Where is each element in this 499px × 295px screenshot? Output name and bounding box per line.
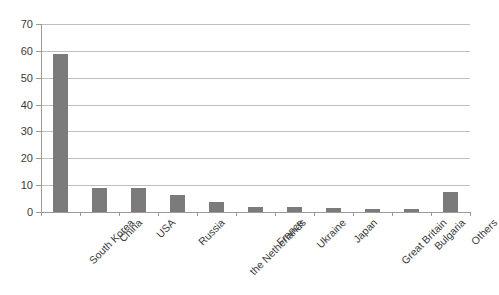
x-tick-mark — [392, 212, 393, 216]
x-tick-label: USA — [154, 217, 177, 240]
x-tick-mark — [353, 212, 354, 216]
x-tick-mark — [236, 212, 237, 216]
y-axis-tick-marks — [0, 24, 41, 212]
x-tick-mark — [41, 212, 42, 216]
x-tick-mark — [197, 212, 198, 216]
x-tick-mark — [314, 212, 315, 216]
bar — [131, 188, 146, 212]
x-tick-mark — [119, 212, 120, 216]
cropped-chart-title — [70, 0, 370, 3]
x-tick-label: Russia — [196, 217, 226, 247]
x-tick-label: Others — [469, 217, 499, 247]
x-tick-label: China — [117, 217, 144, 244]
bar — [170, 195, 185, 212]
x-axis-tick-labels: South KoreaChinaUSARussiathe Netherlands… — [41, 217, 484, 295]
x-tick-mark — [275, 212, 276, 216]
x-tick-mark — [431, 212, 432, 216]
x-tick-mark — [80, 212, 81, 216]
x-tick-mark — [158, 212, 159, 216]
bar — [53, 54, 68, 212]
bar — [209, 202, 224, 212]
bar — [443, 192, 458, 212]
bar-series — [41, 24, 470, 212]
x-tick-label: Japan — [351, 217, 379, 245]
bar — [92, 188, 107, 212]
x-tick-mark — [470, 212, 471, 216]
x-tick-label: Ukraine — [314, 217, 347, 250]
